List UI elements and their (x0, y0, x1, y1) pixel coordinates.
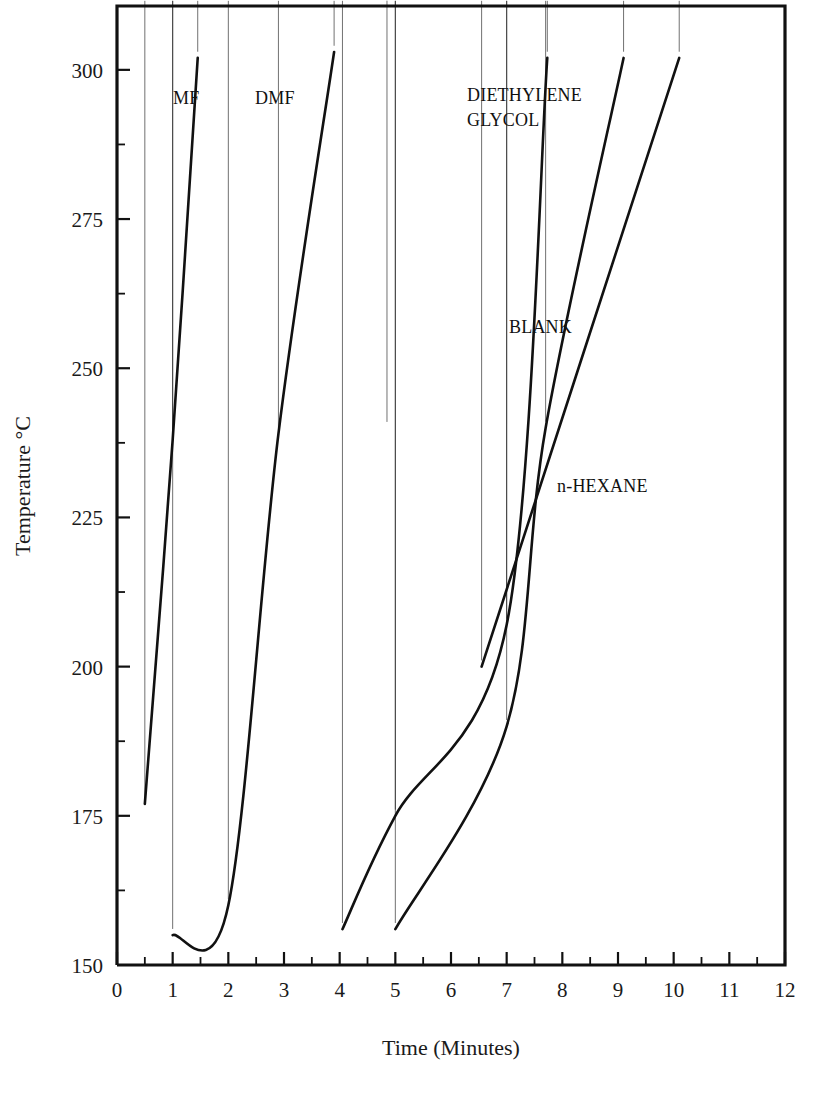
chart-plot-area: 0123456789101112 150175200225250275300 M… (0, 0, 816, 1096)
series-curve-mf (145, 58, 198, 804)
series-curve-n-hexane (482, 58, 680, 667)
series-inline-labels: MF DMF DIETHYLENE GLYCOL BLANK n-HEXANE (173, 85, 648, 496)
series-curve-diethylene-glycol (342, 58, 547, 929)
series-label-n-hexane: n-HEXANE (557, 476, 648, 496)
y-axis-ticks (117, 70, 130, 891)
series-blank (395, 1, 623, 929)
x-tick-label: 10 (663, 978, 684, 1002)
x-axis-title: Time (Minutes) (382, 1035, 520, 1060)
x-tick-label: 7 (501, 978, 512, 1002)
x-tick-label: 9 (613, 978, 624, 1002)
x-tick-label: 0 (112, 978, 123, 1002)
plot-frame (117, 6, 785, 965)
x-axis-tick-labels: 0123456789101112 (112, 978, 796, 1002)
series-label-diethylene-glycol-line1: DIETHYLENE (467, 85, 582, 105)
x-tick-label: 3 (279, 978, 290, 1002)
series-curve-dmf (173, 52, 334, 951)
y-tick-label: 225 (72, 506, 104, 530)
series-label-diethylene-glycol-line2: GLYCOL (467, 110, 539, 130)
x-axis-ticks (117, 952, 785, 965)
y-tick-label: 275 (72, 208, 104, 232)
x-tick-label: 2 (223, 978, 234, 1002)
series-dmf (173, 1, 334, 951)
series-diethylene-glycol (342, 1, 547, 929)
series-label-mf: MF (173, 88, 199, 108)
series-label-dmf: DMF (255, 88, 295, 108)
y-axis-tick-labels: 150175200225250275300 (72, 59, 104, 978)
x-tick-label: 8 (557, 978, 568, 1002)
y-tick-label: 150 (72, 954, 104, 978)
x-tick-label: 6 (446, 978, 457, 1002)
y-tick-label: 300 (72, 59, 104, 83)
y-tick-label: 250 (72, 357, 104, 381)
chart-figure: 0123456789101112 150175200225250275300 M… (0, 0, 816, 1096)
x-tick-label: 4 (334, 978, 345, 1002)
x-tick-label: 5 (390, 978, 401, 1002)
x-tick-label: 11 (719, 978, 739, 1002)
y-axis-title: Temperature °C (10, 416, 35, 556)
y-tick-label: 200 (72, 656, 104, 680)
x-tick-label: 1 (167, 978, 178, 1002)
series-label-blank: BLANK (509, 317, 572, 337)
x-tick-label: 12 (775, 978, 796, 1002)
series-mf (145, 1, 198, 804)
y-tick-label: 175 (72, 805, 104, 829)
